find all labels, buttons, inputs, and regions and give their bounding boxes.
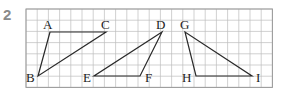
vertex-label-c: C	[101, 17, 110, 32]
triangle-grid-diagram: ABCDEFGHI	[0, 0, 285, 94]
vertex-label-a: A	[43, 17, 53, 32]
vertex-label-d: D	[156, 17, 165, 32]
vertex-label-f: F	[145, 70, 152, 85]
vertex-label-e: E	[83, 70, 91, 85]
vertex-label-h: H	[182, 70, 191, 85]
vertex-label-b: B	[26, 70, 35, 85]
vertex-label-i: I	[256, 70, 260, 85]
vertex-label-g: G	[180, 17, 189, 32]
vertex-labels: ABCDEFGHI	[26, 17, 260, 85]
